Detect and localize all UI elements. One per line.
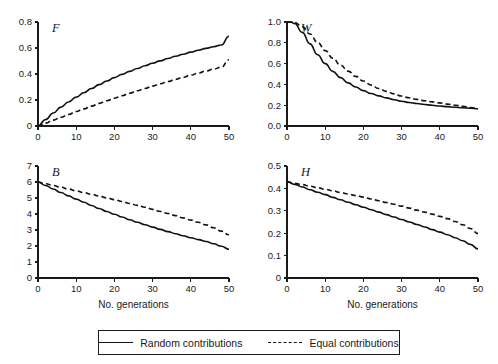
- x-axis-label-b: No. generations: [98, 299, 169, 310]
- series-f-random: [38, 36, 229, 126]
- y-ticklabel-b-4: 4: [27, 208, 32, 219]
- chart-svg-h: 00.10.20.30.40.501020304050HNo. generati…: [249, 152, 498, 312]
- y-ticklabel-h-3: 0.3: [268, 205, 281, 216]
- x-ticklabel-b-0: 0: [35, 283, 40, 294]
- solid-line-swatch-icon: [99, 342, 133, 343]
- y-ticklabel-f-4: 0.8: [19, 16, 32, 27]
- y-ticklabel-w-0: 0.0: [268, 120, 281, 131]
- y-ticklabel-w-3: 0.6: [268, 58, 281, 69]
- y-ticklabel-f-0: 0: [27, 120, 32, 131]
- x-ticklabel-b-5: 50: [224, 283, 235, 294]
- y-ticklabel-b-2: 2: [27, 240, 32, 251]
- y-ticklabel-b-3: 3: [27, 224, 32, 235]
- y-ticklabel-f-2: 0.4: [19, 68, 32, 79]
- legend-label-equal: Equal contributions: [309, 337, 398, 349]
- y-ticklabel-b-6: 6: [27, 176, 32, 187]
- y-ticklabel-w-2: 0.4: [268, 79, 281, 90]
- x-axis-label-h: No. generations: [347, 299, 418, 310]
- x-ticklabel-h-4: 40: [435, 283, 446, 294]
- x-ticklabel-f-4: 40: [186, 131, 197, 142]
- x-ticklabel-w-1: 10: [320, 131, 331, 142]
- y-ticklabel-h-2: 0.2: [268, 228, 281, 239]
- x-ticklabel-f-0: 0: [35, 131, 40, 142]
- figure-panel-grid: 00.20.40.60.801020304050F 0.00.20.40.60.…: [0, 0, 498, 364]
- x-ticklabel-w-3: 30: [396, 131, 407, 142]
- series-w-random: [287, 22, 478, 109]
- chart-panel-h: 00.10.20.30.40.501020304050HNo. generati…: [249, 152, 498, 312]
- x-ticklabel-f-5: 50: [224, 131, 235, 142]
- y-ticklabel-h-1: 0.1: [268, 250, 281, 261]
- series-b-equal: [38, 182, 229, 235]
- y-ticklabel-h-5: 0.5: [268, 160, 281, 171]
- chart-legend: Random contributions Equal contributions: [98, 330, 400, 355]
- y-ticklabel-h-4: 0.4: [268, 183, 281, 194]
- x-ticklabel-w-2: 20: [358, 131, 369, 142]
- chart-panel-w: 0.00.20.40.60.81.001020304050W: [249, 2, 498, 150]
- x-ticklabel-h-1: 10: [320, 283, 331, 294]
- x-ticklabel-h-5: 50: [473, 283, 484, 294]
- x-ticklabel-h-0: 0: [284, 283, 289, 294]
- y-ticklabel-h-0: 0: [276, 272, 281, 283]
- series-h-equal: [287, 182, 478, 234]
- x-ticklabel-w-0: 0: [284, 131, 289, 142]
- panel-title-h: H: [300, 165, 311, 179]
- chart-svg-w: 0.00.20.40.60.81.001020304050W: [249, 2, 498, 150]
- x-ticklabel-f-3: 30: [147, 131, 158, 142]
- chart-svg-f: 00.20.40.60.801020304050F: [0, 2, 249, 150]
- y-ticklabel-f-1: 0.2: [19, 94, 32, 105]
- x-ticklabel-h-3: 30: [396, 283, 407, 294]
- panel-title-f: F: [51, 21, 60, 35]
- x-ticklabel-f-1: 10: [71, 131, 82, 142]
- x-ticklabel-b-1: 10: [71, 283, 82, 294]
- x-ticklabel-b-2: 20: [109, 283, 120, 294]
- y-ticklabel-f-3: 0.6: [19, 42, 32, 53]
- y-ticklabel-b-1: 1: [27, 256, 32, 267]
- x-ticklabel-f-2: 20: [109, 131, 120, 142]
- series-w-equal: [287, 22, 478, 109]
- chart-svg-b: 0123456701020304050BNo. generations: [0, 152, 249, 312]
- dashed-line-swatch-icon: [268, 342, 302, 343]
- legend-entry-random: Random contributions: [99, 337, 242, 349]
- y-ticklabel-b-5: 5: [27, 192, 32, 203]
- legend-entry-equal: Equal contributions: [268, 337, 398, 349]
- series-h-random: [287, 182, 478, 249]
- x-ticklabel-w-5: 50: [473, 131, 484, 142]
- series-b-random: [38, 182, 229, 249]
- y-ticklabel-w-4: 0.8: [268, 37, 281, 48]
- chart-panel-f: 00.20.40.60.801020304050F: [0, 2, 249, 150]
- chart-panel-b: 0123456701020304050BNo. generations: [0, 152, 249, 312]
- y-ticklabel-w-5: 1.0: [268, 16, 281, 27]
- x-ticklabel-b-4: 40: [186, 283, 197, 294]
- x-ticklabel-b-3: 30: [147, 283, 158, 294]
- y-ticklabel-w-1: 0.2: [268, 100, 281, 111]
- panel-title-b: B: [52, 165, 60, 179]
- legend-label-random: Random contributions: [140, 337, 242, 349]
- y-ticklabel-b-0: 0: [27, 272, 32, 283]
- x-ticklabel-w-4: 40: [435, 131, 446, 142]
- x-ticklabel-h-2: 20: [358, 283, 369, 294]
- y-ticklabel-b-7: 7: [27, 160, 32, 171]
